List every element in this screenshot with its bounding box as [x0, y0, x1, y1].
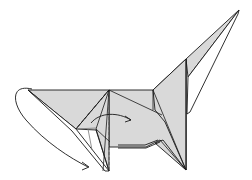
origami-diagram	[0, 0, 252, 180]
origami-figure	[0, 0, 252, 180]
